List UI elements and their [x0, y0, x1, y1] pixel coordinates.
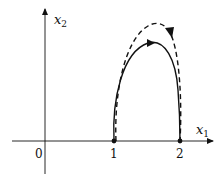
origin-label: 0 [35, 147, 43, 161]
point-2 [178, 139, 183, 144]
solid-arrow-icon [147, 39, 155, 47]
x-axis-label: x1 [196, 122, 209, 139]
tick-label-1: 1 [110, 147, 118, 161]
point-1 [112, 139, 117, 144]
solid-trajectory [114, 42, 180, 141]
tick-label-2: 2 [176, 147, 184, 161]
dashed-arrow-icon [165, 27, 174, 38]
phase-diagram: x2 x1 0 1 2 [0, 0, 224, 188]
y-axis-label: x2 [54, 12, 67, 29]
